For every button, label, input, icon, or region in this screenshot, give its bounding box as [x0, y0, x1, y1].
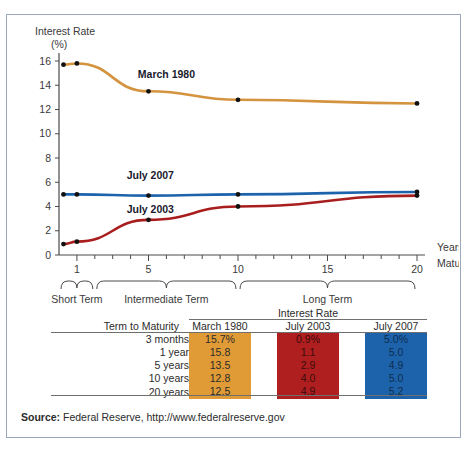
cell-july-2003: 0.9%	[277, 333, 339, 347]
x-tick-label: 5	[146, 263, 152, 275]
cell-term: 5 years	[51, 359, 189, 372]
cell-spacer	[251, 333, 277, 347]
y-tick-label: 16	[39, 55, 51, 67]
data-point	[146, 89, 151, 94]
cell-spacer	[251, 359, 277, 372]
brace-label: Long Term	[303, 293, 353, 305]
cell-term: 10 years	[51, 372, 189, 385]
table-row: 10 years12.84.05.0	[51, 372, 427, 385]
data-point	[75, 192, 80, 197]
y-tick-label: 10	[39, 127, 51, 139]
y-tick-label: 14	[39, 79, 51, 91]
table-row: 3 months15.7%0.9%5.0%	[51, 333, 427, 347]
interest-rate-table: Interest Rate Term to Maturity March 198…	[51, 307, 427, 399]
cell-march-1980: 12.5	[189, 385, 251, 399]
cell-july-2007: 5.0	[365, 346, 427, 359]
brace	[97, 281, 236, 289]
column-header-july-2003: July 2003	[277, 320, 339, 333]
source-label: Source:	[21, 411, 60, 423]
cell-spacer	[251, 385, 277, 399]
table-body: 3 months15.7%0.9%5.0%1 year15.81.15.05 y…	[51, 333, 427, 400]
source-note: Source: Federal Reserve, http://www.fede…	[21, 411, 285, 423]
cell-spacer	[339, 372, 365, 385]
y-tick-label: 12	[39, 103, 51, 115]
data-point	[75, 61, 80, 66]
table-row: 5 years13.52.94.9	[51, 359, 427, 372]
x-tick-label: 15	[322, 263, 334, 275]
cell-spacer	[251, 346, 277, 359]
column-header-july-2007: July 2007	[365, 320, 427, 333]
data-point	[236, 192, 241, 197]
cell-july-2007: 5.0	[365, 372, 427, 385]
series-label-july-2003: July 2003	[127, 203, 174, 215]
data-point	[236, 97, 241, 102]
brace	[61, 281, 93, 289]
cell-spacer	[339, 359, 365, 372]
y-tick-label: 0	[45, 249, 51, 261]
cell-july-2007: 5.2	[365, 385, 427, 399]
cell-spacer	[251, 372, 277, 385]
source-text: Federal Reserve, http://www.federalreser…	[60, 411, 285, 423]
table-group-header-row: Interest Rate	[51, 307, 427, 320]
cell-term: 3 months	[51, 333, 189, 347]
x-tick-label: 10	[232, 263, 244, 275]
cell-march-1980: 15.8	[189, 346, 251, 359]
table-column-header-row: Term to Maturity March 1980 July 2003 Ju…	[51, 320, 427, 333]
cell-march-1980: 15.7%	[189, 333, 251, 347]
data-point	[61, 242, 66, 247]
table-bottom-rule	[51, 395, 427, 396]
series-label-march-1980: March 1980	[138, 68, 195, 80]
cell-july-2003: 4.9	[277, 385, 339, 399]
column-spacer-1	[251, 320, 277, 333]
cell-term: 20 years	[51, 385, 189, 399]
series-label-july-2007: July 2007	[127, 169, 174, 181]
y-tick-label: 8	[45, 152, 51, 164]
x-tick-label: 1	[74, 263, 80, 275]
series-line-july-2003	[63, 196, 417, 245]
y-axis-title-line2: (%)	[51, 38, 67, 50]
x-axis-title-line2: Maturity	[437, 257, 459, 269]
cell-spacer	[339, 333, 365, 347]
cell-spacer	[339, 385, 365, 399]
cell-spacer	[339, 346, 365, 359]
data-point	[415, 193, 420, 198]
cell-july-2007: 5.0%	[365, 333, 427, 347]
group-header-interest-rate: Interest Rate	[189, 307, 427, 320]
data-point	[61, 192, 66, 197]
y-tick-label: 6	[45, 176, 51, 188]
interest-rate-table-area: Interest Rate Term to Maturity March 198…	[7, 307, 459, 403]
column-header-term-to-maturity: Term to Maturity	[51, 320, 189, 333]
y-tick-label: 4	[45, 200, 51, 212]
figure-panel: Interest Rate(%)024681012141615101520Yea…	[6, 14, 461, 438]
cell-march-1980: 13.5	[189, 359, 251, 372]
x-tick-label: 20	[411, 263, 423, 275]
data-point	[236, 204, 241, 209]
cell-july-2007: 4.9	[365, 359, 427, 372]
chart-svg: Interest Rate(%)024681012141615101520Yea…	[7, 15, 459, 307]
y-tick-label: 2	[45, 224, 51, 236]
data-point	[61, 62, 66, 67]
column-header-march-1980: March 1980	[189, 320, 251, 333]
brace	[240, 281, 415, 289]
data-point	[75, 239, 80, 244]
y-axis-title-line1: Interest Rate	[35, 25, 95, 37]
data-point	[415, 101, 420, 106]
cell-july-2003: 4.0	[277, 372, 339, 385]
table-row: 1 year15.81.15.0	[51, 346, 427, 359]
cell-term: 1 year	[51, 346, 189, 359]
cell-july-2003: 2.9	[277, 359, 339, 372]
series-line-march-1980	[63, 63, 417, 103]
cell-march-1980: 12.8	[189, 372, 251, 385]
x-axis-title-line1: Years to	[437, 241, 459, 253]
brace-label: Intermediate Term	[124, 293, 209, 305]
group-header-spacer	[51, 307, 189, 320]
data-point	[146, 193, 151, 198]
cell-july-2003: 1.1	[277, 346, 339, 359]
yield-curve-chart: Interest Rate(%)024681012141615101520Yea…	[7, 15, 459, 307]
data-point	[146, 217, 151, 222]
column-spacer-2	[339, 320, 365, 333]
brace-label: Short Term	[51, 293, 102, 305]
table-row: 20 years12.54.95.2	[51, 385, 427, 399]
